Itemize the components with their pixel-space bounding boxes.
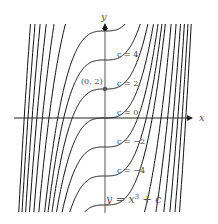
highlight-point-dot [103,87,107,91]
cubic-family-diagram: x y (0, 2) c = 4c = 2c = 0c = −2c = −4 y… [0,0,218,224]
point-label: (0, 2) [81,77,103,86]
c-label: c = 0 [117,108,138,117]
c-label: c = −2 [117,137,145,146]
curve-c-2 [48,0,156,224]
equation-label: y = x3 + c [105,193,161,206]
curve-c--14 [151,0,180,224]
y-axis-label: y [100,11,107,22]
c-label: c = 4 [117,50,138,59]
curve-c-0 [52,0,160,224]
c-labels: c = 4c = 2c = 0c = −2c = −4 [117,50,145,175]
c-label: c = 2 [117,79,138,88]
x-axis-label: x [199,112,205,123]
c-label: c = −4 [117,166,145,175]
curve-c--4 [62,0,167,224]
point-0-6-dot [103,27,107,31]
